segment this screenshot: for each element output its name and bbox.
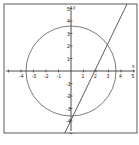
x-tick-label: -3 — [32, 73, 37, 79]
y-tick-label: 5 — [67, 6, 70, 12]
x-tick-label: 1 — [82, 73, 85, 79]
y-tick-label: -2 — [66, 93, 71, 99]
x-tick-label: 5 — [132, 73, 135, 79]
x-tick-label: 2 — [94, 73, 97, 79]
graph: -4-3-2-11234554321-1-2-3-4xy — [0, 0, 139, 145]
x-tick-label: 3 — [107, 73, 110, 79]
x-tick-label: -1 — [57, 73, 62, 79]
y-tick-label: 4 — [67, 18, 70, 24]
x-tick-label: 4 — [119, 73, 122, 79]
y-tick-label: -3 — [66, 106, 71, 112]
y-tick-label: 2 — [67, 43, 70, 49]
y-tick-label: 1 — [67, 56, 70, 62]
x-tick-label: -4 — [19, 73, 24, 79]
plot-frame — [4, 4, 137, 133]
y-tick-label: 3 — [67, 31, 70, 37]
x-tick-label: -2 — [44, 73, 49, 79]
y-tick-label: -1 — [66, 81, 71, 87]
